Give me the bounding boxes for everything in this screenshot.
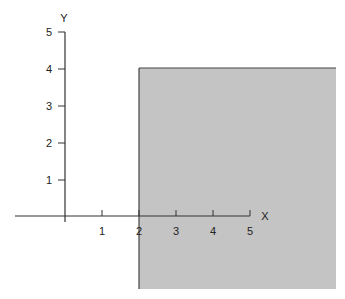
x-tick-label: 3 xyxy=(173,225,179,237)
y-tick-label: 4 xyxy=(46,63,52,75)
y-tick-label: 5 xyxy=(46,26,52,38)
x-tick-label: 4 xyxy=(210,225,216,237)
y-ticks xyxy=(58,32,65,180)
x-tick-label: 1 xyxy=(99,225,105,237)
shaded-region xyxy=(139,68,336,289)
y-tick-label: 3 xyxy=(46,100,52,112)
y-tick-label: 2 xyxy=(46,137,52,149)
y-tick-label: 1 xyxy=(46,174,52,186)
y-axis-label: Y xyxy=(60,12,68,24)
x-tick-label: 2 xyxy=(136,225,142,237)
graph: 1 2 3 4 5 5 4 3 2 1 Y X xyxy=(0,0,345,299)
x-tick-label: 5 xyxy=(247,225,253,237)
x-axis-label: X xyxy=(261,210,269,222)
